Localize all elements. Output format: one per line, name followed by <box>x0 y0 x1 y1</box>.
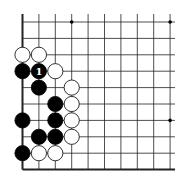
white-stone-icon <box>48 64 63 79</box>
black-stone[interactable] <box>15 113 30 128</box>
black-stone-icon <box>48 113 63 128</box>
white-stone-icon <box>15 47 30 62</box>
white-stone[interactable] <box>64 80 79 95</box>
black-stone[interactable] <box>15 64 30 79</box>
black-stone-icon <box>31 129 46 144</box>
white-stone[interactable] <box>31 146 46 161</box>
black-stone-icon <box>15 146 30 161</box>
go-board[interactable]: 1 <box>0 0 186 186</box>
black-stone[interactable] <box>31 129 46 144</box>
black-stone-icon <box>15 64 30 79</box>
black-stone-icon <box>15 113 30 128</box>
black-stone[interactable]: 1 <box>31 64 46 79</box>
white-stone[interactable] <box>48 64 63 79</box>
black-stone-icon <box>48 96 63 111</box>
white-stone[interactable] <box>64 113 79 128</box>
black-stone[interactable] <box>48 129 63 144</box>
white-stone-icon <box>48 146 63 161</box>
white-stone-icon <box>31 47 46 62</box>
white-stone-icon <box>64 80 79 95</box>
white-stone-icon <box>64 129 79 144</box>
move-number-label: 1 <box>35 66 42 77</box>
star-point-icon <box>168 20 172 24</box>
star-point-icon <box>70 20 74 24</box>
white-stone-icon <box>31 146 46 161</box>
white-stone[interactable] <box>31 47 46 62</box>
star-point-icon <box>168 119 172 123</box>
black-stone-icon <box>48 129 63 144</box>
black-stone[interactable] <box>15 146 30 161</box>
white-stone-icon <box>64 113 79 128</box>
white-stone[interactable] <box>64 96 79 111</box>
black-stone[interactable] <box>48 96 63 111</box>
white-stone-icon <box>64 96 79 111</box>
black-stone[interactable] <box>48 113 63 128</box>
black-stone-icon <box>31 80 46 95</box>
black-stone[interactable] <box>31 80 46 95</box>
white-stone[interactable] <box>15 47 30 62</box>
white-stone[interactable] <box>64 129 79 144</box>
white-stone[interactable] <box>48 146 63 161</box>
